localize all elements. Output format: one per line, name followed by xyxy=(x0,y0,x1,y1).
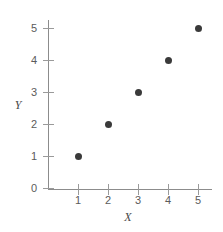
y-axis-title: Y xyxy=(10,98,26,113)
y-tick-label-1: 1 xyxy=(17,151,37,162)
x-tick-label-2: 2 xyxy=(98,195,118,206)
y-tick-mark-2 xyxy=(43,124,54,125)
y-tick-label-4: 4 xyxy=(17,55,37,66)
x-tick-label-4: 4 xyxy=(158,195,178,206)
y-tick-mark-5 xyxy=(43,28,54,29)
data-point xyxy=(165,57,172,64)
x-tick-label-5: 5 xyxy=(188,195,208,206)
data-point xyxy=(105,121,112,128)
y-axis-line xyxy=(48,20,49,190)
data-point xyxy=(195,25,202,32)
scatter-plot-figure: 0 1 2 3 4 5 1 2 3 4 5 Y X xyxy=(0,0,223,232)
y-tick-label-3: 3 xyxy=(17,87,37,98)
x-tick-label-1: 1 xyxy=(68,195,88,206)
y-tick-label-0: 0 xyxy=(17,183,37,194)
y-tick-label-2: 2 xyxy=(17,119,37,130)
y-tick-mark-0 xyxy=(43,188,54,189)
y-tick-mark-1 xyxy=(43,156,54,157)
y-tick-mark-4 xyxy=(43,60,54,61)
x-axis-line xyxy=(48,189,212,190)
x-tick-label-3: 3 xyxy=(128,195,148,206)
y-tick-label-5: 5 xyxy=(17,23,37,34)
data-point xyxy=(75,153,82,160)
data-point xyxy=(135,89,142,96)
y-tick-mark-3 xyxy=(43,92,54,93)
x-axis-title: X xyxy=(120,210,136,225)
